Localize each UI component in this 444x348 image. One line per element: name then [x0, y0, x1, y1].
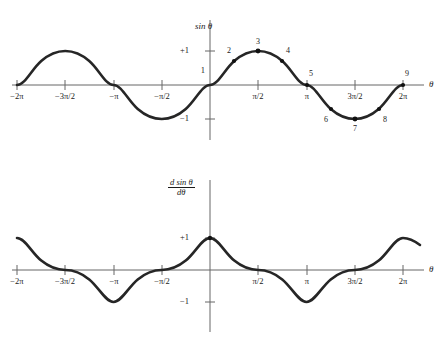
derivative-origin-point — [208, 236, 212, 240]
data-point-label-9: 9 — [405, 70, 409, 78]
derivative-y-tick-plus-one: +1 — [180, 233, 189, 242]
data-point-6 — [329, 107, 333, 111]
sine-x-tick-3pi-2: 3π/2 — [347, 92, 362, 101]
derivative-y-axis-denominator: dθ — [168, 188, 195, 197]
sine-y-axis-label: sin θ — [195, 22, 212, 31]
derivative-x-axis-label: θ — [429, 265, 433, 274]
derivative-y-tick-minus-one: −1 — [180, 297, 189, 306]
sine-origin-unit-label: 1 — [201, 66, 205, 75]
derivative-x-tick-2pi: 2π — [399, 277, 408, 286]
sine-x-tick-neg-pi-2: −π/2 — [154, 92, 170, 101]
data-point-label-2: 2 — [227, 47, 231, 55]
sine-x-tick-neg-2pi: −2π — [10, 92, 23, 101]
data-point-label-5: 5 — [309, 70, 313, 78]
data-point-label-6: 6 — [324, 116, 328, 124]
data-point-8 — [377, 107, 381, 111]
derivative-y-axis-label: d sin θ dθ — [168, 178, 195, 197]
derivative-x-tick-pi-2: π/2 — [253, 277, 264, 286]
derivative-x-tick-pi: π — [305, 277, 309, 286]
sine-y-tick-minus-one: −1 — [180, 114, 189, 123]
data-point-label-7: 7 — [353, 125, 357, 133]
sine-x-tick-neg-pi: −π — [109, 92, 118, 101]
derivative-x-tick-neg-pi: −π — [109, 277, 118, 286]
sine-x-tick-pi-2: π/2 — [253, 92, 264, 101]
sine-x-axis-label: θ — [429, 80, 433, 89]
derivative-plot: d sin θ dθ θ +1 −1 −2π −3π/2 −π −π/2 π/2… — [0, 160, 444, 348]
data-point-2 — [232, 59, 236, 63]
derivative-x-tick-neg-2pi: −2π — [10, 277, 23, 286]
sine-derivative-figure: sin θ θ +1 −1 1 −2π −3π/2 −π −π/2 π/2 π … — [0, 0, 444, 348]
sine-plot-canvas — [0, 0, 444, 160]
derivative-x-tick-3pi-2: 3π/2 — [347, 277, 362, 286]
data-point-7 — [353, 117, 358, 122]
data-point-3 — [256, 49, 261, 54]
data-point-label-3: 3 — [256, 38, 260, 46]
sine-x-tick-2pi: 2π — [399, 92, 408, 101]
data-point-9 — [401, 83, 405, 87]
data-point-4 — [280, 59, 284, 63]
derivative-x-tick-neg-3pi-2: −3π/2 — [55, 277, 75, 286]
sine-plot: sin θ θ +1 −1 1 −2π −3π/2 −π −π/2 π/2 π … — [0, 0, 444, 160]
derivative-plot-canvas — [0, 160, 444, 348]
derivative-x-tick-neg-pi-2: −π/2 — [154, 277, 170, 286]
sine-x-tick-neg-3pi-2: −3π/2 — [55, 92, 75, 101]
sine-y-tick-plus-one: +1 — [180, 46, 189, 55]
data-point-label-4: 4 — [286, 47, 290, 55]
data-point-5 — [305, 83, 309, 87]
data-point-label-8: 8 — [383, 116, 387, 124]
sine-x-tick-pi: π — [305, 92, 309, 101]
